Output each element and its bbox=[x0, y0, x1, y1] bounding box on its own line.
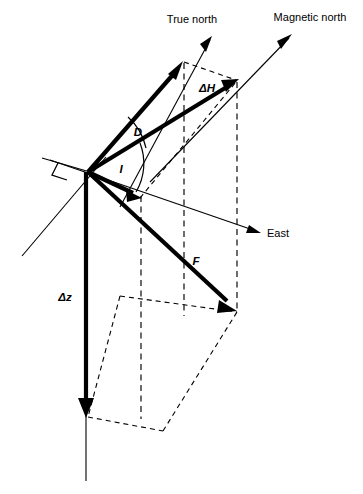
label-magnetic-north: Magnetic north bbox=[274, 11, 347, 23]
vector-horizontal-projection-arrowhead-icon bbox=[126, 190, 142, 202]
label-declination-d: D bbox=[134, 126, 142, 138]
inclination-angle-arc bbox=[136, 143, 144, 192]
east-arrowhead-icon bbox=[246, 225, 261, 233]
true-north-arrowhead-icon bbox=[200, 36, 212, 52]
horizontal-plane-edge-line bbox=[22, 157, 106, 256]
diagram-canvas: True north Magnetic north East D I ΔH F … bbox=[0, 0, 363, 494]
vector-f-total-field bbox=[88, 172, 227, 301]
geomagnetic-field-diagram: True north Magnetic north East D I ΔH F … bbox=[0, 0, 363, 494]
dash-inclination-plane-upper bbox=[140, 82, 236, 198]
east-axis-line bbox=[50, 160, 256, 231]
dash-bottom-front-edge bbox=[88, 417, 163, 431]
vector-delta-z-arrowhead-icon bbox=[78, 398, 94, 418]
vector-delta-h bbox=[88, 85, 230, 172]
dash-bottom-right-edge bbox=[163, 312, 237, 431]
vector-horizontal-projection bbox=[88, 172, 133, 193]
dash-top-edge bbox=[184, 62, 236, 80]
label-f-total-field: F bbox=[192, 255, 200, 267]
label-inclination-i: I bbox=[119, 163, 123, 175]
magnetic-north-arrowhead-icon bbox=[277, 34, 292, 49]
label-east: East bbox=[267, 227, 289, 239]
label-delta-h: ΔH bbox=[198, 82, 216, 94]
label-delta-z: Δz bbox=[57, 291, 72, 303]
label-true-north: True north bbox=[167, 13, 217, 25]
vector-f-arrowhead-icon bbox=[217, 300, 237, 313]
